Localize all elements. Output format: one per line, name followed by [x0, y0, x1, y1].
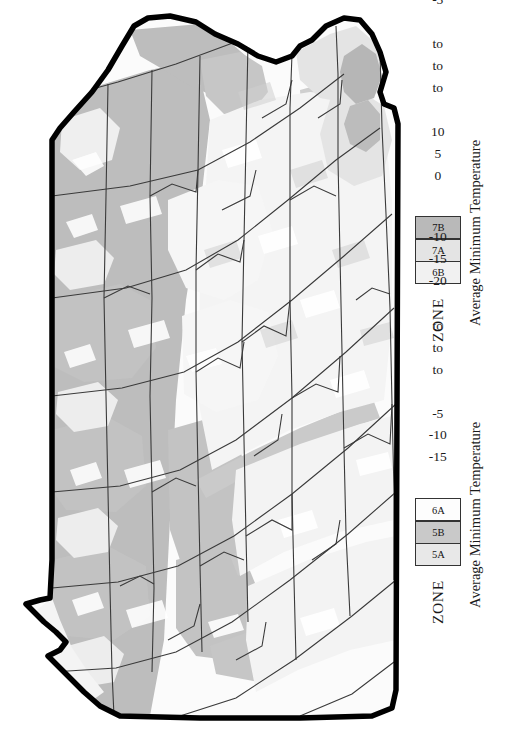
legend-warm-low-0: -5: [416, 0, 460, 10]
legend-cold-zone-header: ZONE: [429, 566, 447, 624]
legend-warm-high-value-2: 10: [431, 125, 445, 139]
legend-cold-high-2: -5: [416, 402, 460, 424]
map-zone-fills: [0, 0, 420, 736]
legend-warm-temp-header: Average Minimum Temperature: [467, 140, 484, 342]
legend-cold-high-value-1: -10: [429, 429, 447, 443]
legend-cold-connector-column: to to to: [416, 314, 460, 380]
legend-cold-low-value-0: -20: [429, 275, 447, 289]
legend-warm-connector-1: to: [416, 54, 460, 76]
legend-cold-high-column: -15 -10 -5: [416, 402, 460, 468]
map-figure: [0, 0, 420, 736]
page-root: ZONE 6B 7A 7B 0: [0, 0, 531, 736]
legend-cold-low-value-2: -10: [429, 231, 447, 245]
legend-warm-high-1: 5: [416, 142, 460, 164]
legend-cold-connector-0: to: [416, 358, 460, 380]
legend-warm-connector-text-0: to: [433, 81, 444, 95]
legend-cold-swatch-0: 5A: [416, 544, 460, 565]
legend-cold-swatch-2: 6A: [416, 499, 460, 520]
legend-cold-high-0: -15: [416, 446, 460, 468]
legend-warm-high-column: 0 5 10: [416, 120, 460, 186]
legend-warm-connector-text-2: to: [433, 37, 444, 51]
legend-warm-connector-0: to: [416, 76, 460, 98]
legend-cold-low-column: -20 -15 -10: [416, 226, 460, 292]
legend-cold-swatch-1: 5B: [416, 522, 460, 543]
pennsylvania-map-svg: [0, 0, 420, 736]
legend-warm-high-value-0: 0: [435, 169, 442, 183]
legend-cold-swatches: 5A 5B 6A: [415, 498, 461, 566]
legend-cold-high-value-2: -5: [432, 407, 443, 421]
legend-cold-high-1: -10: [416, 424, 460, 446]
legend-warm-high-2: 10: [416, 120, 460, 142]
legend-warm-low-column: -5 0 5: [416, 0, 460, 10]
legend-cold-low-2: -10: [416, 226, 460, 248]
legend-cold-connector-text-1: to: [433, 341, 444, 355]
legend-cold-swatch-label-0: 5A: [431, 549, 444, 560]
legend-cold-connector-text-0: to: [433, 363, 444, 377]
legend-warm-connector-2: to: [416, 32, 460, 54]
legend-cold-connector-2: to: [416, 314, 460, 336]
legend-warm-low-value-0: -5: [432, 0, 443, 6]
legend-cold-connector-text-2: to: [433, 319, 444, 333]
legend-cold-high-value-0: -15: [429, 451, 447, 465]
legend-warm-high-0: 0: [416, 164, 460, 186]
legend-cold-swatch-label-2: 6A: [431, 504, 444, 515]
legend-cold-zones: ZONE 5A 5B 6A -15: [415, 356, 531, 624]
legend-warm-connector-text-1: to: [433, 59, 444, 73]
legend-warm-high-value-1: 5: [435, 147, 442, 161]
legend-cold-low-0: -20: [416, 270, 460, 292]
legend-cold-low-1: -15: [416, 248, 460, 270]
legend-cold-temp-header: Average Minimum Temperature: [467, 422, 484, 624]
legend-cold-connector-1: to: [416, 336, 460, 358]
legend-cold-swatch-label-1: 5B: [432, 527, 445, 538]
legend-warm-connector-column: to to to: [416, 32, 460, 98]
legend-cold-low-value-1: -15: [429, 253, 447, 267]
